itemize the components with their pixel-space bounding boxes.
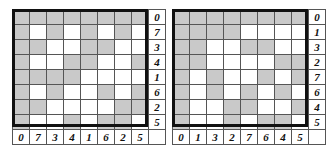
shaded-cell [173,100,190,115]
blank-cell [292,85,309,100]
blank-cell [30,115,47,130]
blank-cell [241,115,258,130]
blank-cell [190,115,207,130]
grid-row: 1 [173,25,326,40]
shaded-cell [132,55,149,70]
grid-row: 3 [173,40,326,55]
blank-cell [275,25,292,40]
row-label: 5 [149,115,166,130]
blank-cell [275,100,292,115]
shaded-cell [13,70,30,85]
shaded-cell [30,10,47,25]
shaded-cell [81,55,98,70]
shaded-cell [13,55,30,70]
shaded-cell [64,10,81,25]
blank-cell [115,55,132,70]
column-label-row: 07341625 [13,130,166,145]
blank-cell [292,115,309,130]
blank-cell [81,70,98,85]
shaded-cell [98,85,115,100]
row-label: 3 [149,40,166,55]
shaded-cell [13,100,30,115]
grid-row: 1 [13,70,166,85]
blank-cell [190,70,207,85]
row-label: 1 [149,70,166,85]
row-label: 0 [309,10,326,25]
shaded-cell [47,70,64,85]
shaded-cell [132,10,149,25]
shaded-cell [81,40,98,55]
grid-row: 6 [173,85,326,100]
shaded-cell [81,10,98,25]
blank-cell [115,70,132,85]
blank-cell [207,40,224,55]
shaded-cell [173,70,190,85]
blank-cell [98,100,115,115]
column-label: 3 [207,130,224,145]
shaded-cell [115,10,132,25]
shaded-cell [207,10,224,25]
column-label: 6 [98,130,115,145]
column-label-row: 01327645 [173,130,326,145]
shaded-cell [13,10,30,25]
row-label: 2 [309,55,326,70]
column-label: 4 [275,130,292,145]
shaded-cell [98,40,115,55]
shaded-cell [30,40,47,55]
shaded-cell [275,115,292,130]
shaded-cell [258,10,275,25]
shaded-cell [258,40,275,55]
shaded-cell [115,115,132,130]
shaded-cell [98,115,115,130]
shaded-cell [258,115,275,130]
shaded-cell [173,40,190,55]
blank-cell [98,25,115,40]
shaded-cell [98,10,115,25]
shaded-cell [47,10,64,25]
shaded-cell [207,25,224,40]
shaded-cell [241,10,258,25]
shaded-cell [190,40,207,55]
grid-row: 4 [13,55,166,70]
right-grid: 0132764501327645 [172,9,326,145]
column-label: 2 [115,130,132,145]
right-grid-panel: 0132764501327645 [172,9,326,145]
blank-cell [64,85,81,100]
grid-row: 5 [13,115,166,130]
blank-cell [98,70,115,85]
column-label: 7 [30,130,47,145]
shaded-cell [275,10,292,25]
blank-cell [258,85,275,100]
shaded-cell [115,25,132,40]
blank-cell [81,100,98,115]
column-label: 2 [224,130,241,145]
blank-cell [224,55,241,70]
grid-row: 5 [173,115,326,130]
grid-row: 3 [13,40,166,55]
blank-cell [47,100,64,115]
shaded-cell [173,85,190,100]
blank-cell [81,85,98,100]
shaded-cell [30,100,47,115]
row-label: 2 [149,100,166,115]
column-label: 3 [47,130,64,145]
row-label: 3 [309,40,326,55]
blank-cell [224,40,241,55]
shaded-cell [224,115,241,130]
shaded-cell [292,55,309,70]
column-label: 6 [258,130,275,145]
shaded-cell [224,100,241,115]
grid-row: 2 [173,55,326,70]
shaded-cell [173,115,190,130]
row-label: 4 [309,100,326,115]
column-label: 5 [132,130,149,145]
shaded-cell [224,25,241,40]
grid-row: 4 [173,100,326,115]
blank-cell [115,85,132,100]
blank-cell [241,70,258,85]
shaded-cell [292,70,309,85]
blank-cell [98,55,115,70]
row-label: 7 [149,25,166,40]
shaded-cell [64,70,81,85]
shaded-cell [275,85,292,100]
